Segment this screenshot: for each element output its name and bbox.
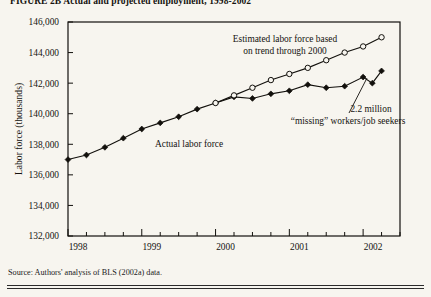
y-tick-label: 136,000 (29, 170, 60, 180)
data-point-marker (342, 83, 348, 89)
data-point-marker (323, 85, 329, 91)
data-point-marker (360, 74, 366, 80)
data-point-marker (120, 135, 126, 141)
data-point-marker (287, 71, 292, 76)
footer-rules (7, 285, 424, 290)
series-layer (65, 35, 384, 163)
gap-label-line1: 2.2 million (350, 104, 391, 114)
y-axis-ticks: 146,000144,000142,000140,000138,000136,0… (29, 17, 73, 241)
source-note: Source: Authors' analysis of BLS (2002a)… (8, 268, 162, 277)
data-point-marker (268, 77, 273, 82)
x-tick-label: 2000 (216, 242, 235, 252)
data-point-marker (213, 100, 218, 105)
data-point-marker (305, 65, 310, 70)
data-point-marker (65, 157, 71, 163)
data-point-marker (102, 144, 108, 150)
data-point-marker (342, 50, 347, 55)
y-tick-label: 138,000 (29, 140, 60, 150)
data-point-marker (139, 126, 145, 132)
gap-label-line2: “missing” workers/job seekers (291, 116, 406, 126)
y-tick-label: 140,000 (29, 109, 60, 119)
data-point-marker (157, 120, 163, 126)
data-point-marker (360, 44, 365, 49)
x-tick-label: 1998 (69, 242, 88, 252)
data-point-marker (84, 152, 90, 158)
plot-frame (68, 22, 400, 236)
labor-force-line-chart: Labor force (thousands) 146,000144,00014… (0, 0, 431, 260)
data-point-marker (379, 35, 384, 40)
y-tick-label: 142,000 (29, 79, 60, 89)
estimated-series-label-line1: Estimated labor force based (233, 34, 338, 44)
data-point-marker (194, 106, 200, 112)
data-point-marker (268, 91, 274, 97)
x-tick-label: 1999 (142, 242, 161, 252)
footer-rule-top (7, 285, 424, 286)
y-tick-label: 144,000 (29, 48, 60, 58)
actual-series-label: Actual labor force (155, 139, 223, 149)
data-point-marker (286, 88, 292, 94)
y-tick-label: 134,000 (29, 201, 60, 211)
footer-rule-bottom (7, 288, 424, 289)
y-tick-label: 132,000 (29, 231, 60, 241)
estimated-series-label-line2: on trend through 2000 (243, 46, 327, 56)
data-point-marker (250, 85, 255, 90)
x-axis-ticks: 19981999200020012002 (68, 229, 400, 252)
data-point-marker (231, 93, 236, 98)
figure-root: FIGURE 2B Actual and projected employmen… (0, 0, 431, 297)
data-point-marker (305, 82, 311, 88)
data-point-marker (324, 58, 329, 63)
data-point-marker (250, 96, 256, 102)
data-point-marker (176, 114, 182, 120)
y-tick-label: 146,000 (29, 17, 60, 27)
y-axis-title: Labor force (thousands) (13, 83, 25, 175)
x-tick-label: 2001 (290, 242, 309, 252)
x-tick-label: 2002 (364, 242, 383, 252)
chart-area: Labor force (thousands) 146,000144,00014… (0, 0, 431, 260)
